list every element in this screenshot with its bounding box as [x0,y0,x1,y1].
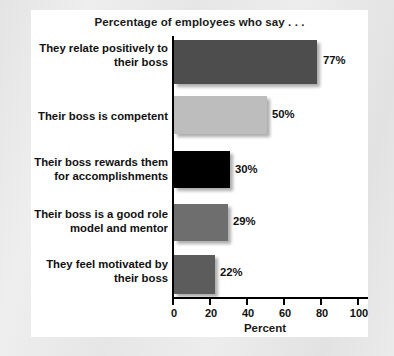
x-tick-label-0: 0 [159,307,189,319]
plot-area: 0 20 40 60 80 100 Percent They relate po… [31,10,368,337]
x-tick-label-60: 60 [270,307,300,319]
bar [174,204,228,241]
x-tick-mark-0 [172,299,174,305]
category-label-line2: for accomplishments [18,170,168,184]
category-label-line2: their boss [18,272,168,286]
bar-value-label: 29% [233,215,256,227]
x-tick-mark-60 [283,299,285,305]
x-tick-mark-40 [246,299,248,305]
x-axis-line [172,297,368,299]
category-label-line1: Their boss is competent [18,110,168,124]
x-tick-label-80: 80 [307,307,337,319]
category-label-line1: Their boss rewards them [18,156,168,170]
bar [174,40,317,84]
chart-panel: Percentage of employees who say . . . 0 … [31,10,368,337]
category-label-line2: model and mentor [18,222,168,236]
x-tick-mark-20 [209,299,211,305]
category-label: They relate positively to their boss [18,42,168,69]
x-axis-title: Percent [172,322,358,334]
bar [174,151,230,188]
bar [174,255,215,294]
category-label-line2: their boss [18,56,168,70]
x-tick-label-20: 20 [196,307,226,319]
bar-value-label: 22% [220,266,243,278]
category-label: They feel motivated by their boss [18,258,168,285]
category-label: Their boss is a good role model and ment… [18,208,168,235]
bar-value-label: 50% [272,108,295,120]
category-label-line1: They feel motivated by [18,258,168,272]
category-label: Their boss rewards them for accomplishme… [18,156,168,183]
x-tick-label-100: 100 [344,307,374,319]
x-tick-mark-100 [357,299,359,305]
category-label: Their boss is competent [18,110,168,124]
category-label-line1: They relate positively to [18,42,168,56]
category-label-line1: Their boss is a good role [18,208,168,222]
x-tick-label-40: 40 [233,307,263,319]
bar [174,96,267,134]
bar-value-label: 77% [323,54,346,66]
x-tick-mark-80 [320,299,322,305]
bar-value-label: 30% [235,163,258,175]
